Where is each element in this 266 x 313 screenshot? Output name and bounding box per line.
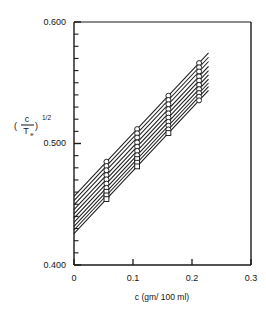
data-marker-circle — [166, 102, 171, 107]
data-marker-circle — [104, 168, 109, 173]
chart-background — [0, 0, 266, 313]
y-tick-label-0500: 0.500 — [43, 138, 66, 148]
y-title-denominator: T — [23, 126, 29, 136]
data-marker-circle — [135, 135, 140, 140]
plot-canvas: 0.600 0.500 0.400 0 0.1 0.2 0.3 c (gm/ 1… — [0, 0, 266, 313]
data-marker-circle — [197, 98, 202, 103]
data-marker-square — [135, 164, 140, 169]
data-marker-circle — [197, 69, 202, 74]
x-tick-label-03: 0.3 — [245, 273, 258, 283]
data-marker-square — [104, 197, 109, 202]
x-tick-label-02: 0.2 — [186, 273, 199, 283]
x-axis-title: c (gm/ 100 ml) — [135, 292, 189, 302]
y-title-exponent: 1/2 — [42, 114, 51, 121]
data-marker-square — [166, 131, 171, 136]
y-title-paren-open: ( — [14, 121, 17, 131]
y-tick-label-0600: 0.600 — [43, 17, 66, 27]
y-title-paren-close: ) — [35, 121, 38, 131]
y-title-numerator: c — [25, 114, 30, 124]
x-tick-label-0: 0 — [71, 273, 76, 283]
y-tick-label-0400: 0.400 — [43, 260, 66, 270]
x-tick-label-01: 0.1 — [127, 273, 140, 283]
chart-figure: 0.600 0.500 0.400 0 0.1 0.2 0.3 c (gm/ 1… — [0, 0, 266, 313]
